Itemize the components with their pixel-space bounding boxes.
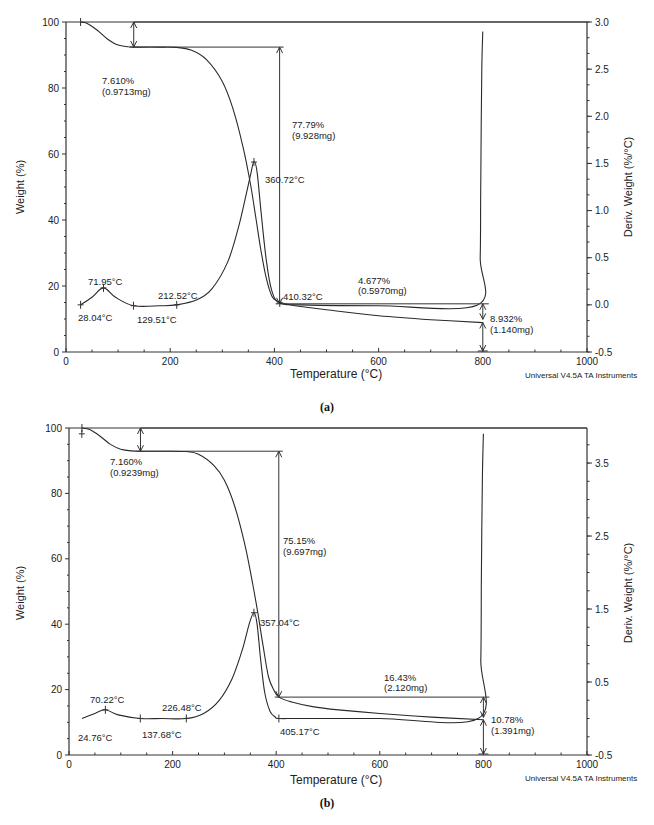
step1-percent: 7.610% [102, 75, 135, 86]
chart-a-annotations: 7.610% (0.9713mg) 77.79% (9.928mg) 4.677… [78, 18, 587, 351]
y-tick-label: 20 [48, 281, 60, 292]
y-axis-title: Weight (%) [14, 566, 26, 620]
y2-tick-label: 3.0 [595, 17, 609, 28]
residue-percent: 8.932% [490, 313, 523, 324]
y-tick-label: 60 [48, 149, 60, 160]
x-tick-label: 600 [371, 759, 388, 770]
instrument-credit: Universal V4.5A TA Instruments [525, 774, 637, 783]
y2-tick-label: 1.0 [595, 205, 609, 216]
y-tick-label: 60 [51, 553, 63, 564]
chart-a-axes: 02004006008001000020406080100-0.50.00.51… [42, 17, 612, 368]
chart-b-annotations: 7.160% (0.9239mg) 75.15% (9.697mg) 16.43… [78, 424, 587, 754]
step2-percent: 77.79% [292, 119, 325, 130]
y-tick-label: 40 [51, 619, 63, 630]
onset4-temp: 410.32°C [283, 291, 323, 302]
step1-mass: (0.9239mg) [110, 467, 159, 478]
y-tick-label: 80 [51, 488, 63, 499]
y-axis-title: Weight (%) [14, 160, 26, 214]
step3-mass: (0.5970mg) [358, 285, 407, 296]
y2-tick-label: 1.5 [595, 604, 609, 615]
x-tick-label: 800 [475, 759, 492, 770]
onset2-temp: 137.68°C [142, 729, 182, 740]
y-tick-label: 40 [48, 215, 60, 226]
peak2-temp: 360.72°C [265, 174, 305, 185]
onset1-temp: 28.04°C [78, 312, 113, 323]
caption-a: (a) [320, 400, 334, 414]
chart-a: 02004006008001000020406080100-0.50.00.51… [14, 17, 637, 415]
y2-tick-label: 2.0 [595, 111, 609, 122]
y2-tick-label: 0.0 [595, 299, 609, 310]
step2-mass: (9.697mg) [283, 546, 326, 557]
x-tick-label: 200 [164, 759, 181, 770]
y-tick-label: 0 [56, 750, 62, 761]
residue-mass: (1.140mg) [490, 324, 533, 335]
onset2-temp: 129.51°C [137, 314, 177, 325]
step1-percent: 7.160% [110, 456, 143, 467]
peak2-temp: 357.04°C [260, 617, 300, 628]
y2-tick-label: 2.5 [595, 64, 609, 75]
y-tick-label: 80 [48, 83, 60, 94]
peak1-temp: 71.95°C [88, 276, 123, 287]
y2-tick-label: 0.5 [595, 677, 609, 688]
x-tick-label: 1000 [576, 356, 599, 367]
y2-tick-label: -0.5 [595, 347, 613, 358]
y2-tick-label: 3.5 [595, 458, 609, 469]
step1-mass: (0.9713mg) [102, 86, 151, 97]
peak1-temp: 70.22°C [90, 694, 125, 705]
y2-tick-label: 1.5 [595, 158, 609, 169]
x-axis-title: Temperature (°C) [290, 773, 382, 787]
onset1-temp: 24.76°C [78, 732, 113, 743]
residue-percent: 10.78% [491, 714, 524, 725]
deriv-weight-curve [81, 31, 486, 308]
chart-a-curves [81, 22, 486, 323]
step3-mass: (2.120mg) [384, 682, 427, 693]
x-tick-label: 800 [474, 356, 491, 367]
y2-axis-title: Deriv. Weight (%/°C) [622, 137, 634, 238]
weight-curve [81, 22, 483, 323]
y-tick-label: 100 [42, 17, 59, 28]
chart-b: 02004006008001000020406080100-0.50.51.52… [14, 423, 637, 811]
y-tick-label: 20 [51, 684, 63, 695]
instrument-credit: Universal V4.5A TA Instruments [525, 371, 637, 380]
y-tick-label: 0 [53, 347, 59, 358]
x-tick-label: 200 [162, 356, 179, 367]
x-axis-title: Temperature (°C) [290, 367, 382, 381]
onset4-temp: 405.17°C [280, 726, 320, 737]
onset3-temp: 212.52°C [158, 290, 198, 301]
y2-tick-label: 0.5 [595, 252, 609, 263]
step2-percent: 75.15% [283, 535, 316, 546]
y2-tick-label: -0.5 [595, 750, 613, 761]
x-tick-label: 1000 [576, 759, 599, 770]
x-tick-label: 600 [370, 356, 387, 367]
residue-mass: (1.391mg) [491, 725, 534, 736]
step2-mass: (9.928mg) [292, 130, 335, 141]
x-tick-label: 0 [63, 356, 69, 367]
caption-b: (b) [320, 796, 335, 810]
tga-figure: 02004006008001000020406080100-0.50.00.51… [0, 0, 654, 825]
x-tick-label: 0 [66, 759, 72, 770]
y-tick-label: 100 [45, 423, 62, 434]
y2-tick-label: 2.5 [595, 531, 609, 542]
y2-axis-title: Deriv. Weight (%/°C) [622, 543, 634, 644]
onset3-temp: 226.48°C [162, 702, 202, 713]
x-tick-label: 400 [266, 356, 283, 367]
x-tick-label: 400 [268, 759, 285, 770]
